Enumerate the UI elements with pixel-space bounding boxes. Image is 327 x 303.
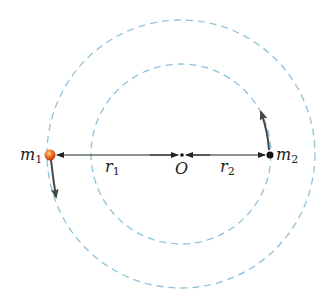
- r2-label: r2: [220, 157, 235, 178]
- m1-velocity-arrow: [51, 160, 56, 197]
- center-label: O: [175, 159, 188, 178]
- m1-label: m1: [20, 145, 42, 166]
- m2-label: m2: [276, 145, 298, 166]
- center-point: [180, 153, 184, 157]
- mass-m2: [267, 152, 274, 159]
- mass-m1: [45, 150, 56, 161]
- r1-label: r1: [105, 157, 120, 178]
- binary-orbit-diagram: m1 m2 r1 r2 O: [0, 0, 327, 303]
